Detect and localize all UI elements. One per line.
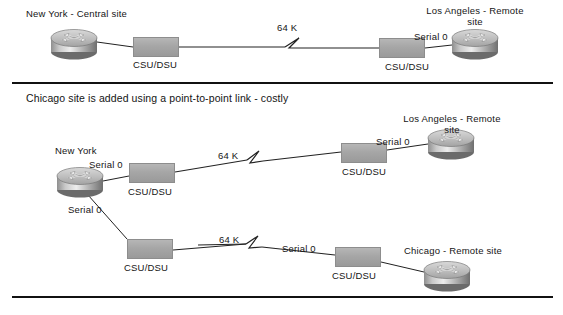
label-csu-dsu-new-york-top: CSU/DSU <box>133 59 177 71</box>
label-los-angeles-top-line1: Los Angeles - Remote <box>415 5 535 17</box>
label-speed-top: 64 K <box>277 22 297 34</box>
csu-dsu-new-york-chicago-link <box>127 239 173 259</box>
label-serial-new-york-lower: Serial 0 <box>68 204 102 216</box>
panel-heading-bottom: Chicago site is added using a point-to-p… <box>26 92 288 105</box>
label-los-angeles-top-line2: site <box>415 16 535 28</box>
csu-dsu-chicago <box>335 247 381 267</box>
diagram-canvas: New York - Central site CSU/DSU 64 K CSU… <box>0 0 563 315</box>
link-lines-layer <box>0 0 563 315</box>
label-serial-los-angeles-top: Serial 0 <box>414 31 448 43</box>
csu-dsu-new-york-top <box>133 37 179 57</box>
router-icon-chicago <box>424 262 470 292</box>
router-icon-new-york-bottom <box>57 168 103 198</box>
label-csu-dsu-chicago: CSU/DSU <box>332 270 376 282</box>
label-chicago: Chicago - Remote site <box>404 245 502 257</box>
router-icon-new-york-top <box>51 30 97 60</box>
label-new-york-top: New York - Central site <box>26 8 127 20</box>
label-csu-dsu-los-angeles-top: CSU/DSU <box>385 61 429 73</box>
label-speed-chicago-bottom: 64 K <box>219 234 239 246</box>
label-speed-la-bottom: 64 K <box>218 150 238 162</box>
label-serial-new-york-upper: Serial 0 <box>89 159 123 171</box>
router-icon-los-angeles-top <box>452 30 498 60</box>
label-serial-los-angeles-bottom: Serial 0 <box>376 136 410 148</box>
label-csu-dsu-new-york-la-link: CSU/DSU <box>128 186 172 198</box>
panel-divider-bottom <box>12 296 553 298</box>
label-csu-dsu-los-angeles-bottom: CSU/DSU <box>342 166 386 178</box>
csu-dsu-new-york-la-link <box>129 163 175 183</box>
label-new-york-bottom: New York <box>55 145 97 157</box>
panel-divider-top <box>12 82 553 84</box>
label-los-angeles-bottom-line2: site <box>392 124 512 136</box>
label-csu-dsu-new-york-chicago-link: CSU/DSU <box>124 262 168 274</box>
label-serial-chicago: Serial 0 <box>282 243 316 255</box>
label-los-angeles-bottom-line1: Los Angeles - Remote <box>392 113 512 125</box>
